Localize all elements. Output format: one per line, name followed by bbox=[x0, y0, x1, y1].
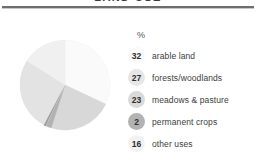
legend: % 32 arable land 27 forests/woodlands 23… bbox=[128, 30, 254, 157]
legend-label-permanent-crops: permanent crops bbox=[152, 117, 217, 127]
legend-value-permanent-crops: 2 bbox=[134, 117, 139, 127]
legend-value-other-uses: 16 bbox=[132, 139, 141, 149]
legend-label-meadows-pasture: meadows & pasture bbox=[152, 95, 229, 105]
legend-item-other-uses[interactable]: 16 other uses bbox=[128, 135, 254, 152]
legend-badge-forests-woodlands: 27 bbox=[128, 69, 145, 86]
legend-value-meadows-pasture: 23 bbox=[132, 95, 141, 105]
legend-badge-permanent-crops: 2 bbox=[128, 113, 145, 130]
legend-label-forests-woodlands: forests/woodlands bbox=[152, 73, 222, 83]
page-title: LAND USE bbox=[0, 0, 256, 3]
legend-badge-meadows-pasture: 23 bbox=[128, 91, 145, 108]
legend-item-meadows-pasture[interactable]: 23 meadows & pasture bbox=[128, 91, 254, 108]
pie-chart-svg bbox=[18, 33, 114, 137]
legend-label-arable-land: arable land bbox=[152, 51, 195, 61]
legend-label-other-uses: other uses bbox=[152, 139, 193, 149]
legend-value-forests-woodlands: 27 bbox=[132, 73, 141, 83]
land-use-infographic: LAND USE % 32 bbox=[0, 0, 256, 164]
legend-badge-other-uses: 16 bbox=[128, 135, 145, 152]
legend-unit-header: % bbox=[137, 30, 254, 40]
pie-chart bbox=[18, 33, 114, 137]
legend-item-permanent-crops[interactable]: 2 permanent crops bbox=[128, 113, 254, 130]
legend-item-arable-land[interactable]: 32 arable land bbox=[128, 47, 254, 64]
header-divider-shadow bbox=[2, 8, 254, 9]
legend-badge-arable-land: 32 bbox=[128, 47, 145, 64]
legend-item-forests-woodlands[interactable]: 27 forests/woodlands bbox=[128, 69, 254, 86]
legend-value-arable-land: 32 bbox=[132, 51, 141, 61]
